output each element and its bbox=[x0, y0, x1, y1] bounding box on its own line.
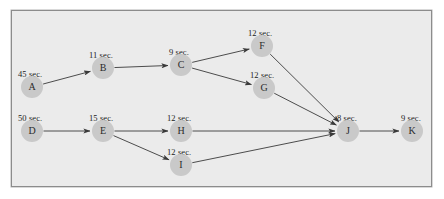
graph-node-i[interactable]: I bbox=[170, 154, 192, 176]
graph-node-b[interactable]: B bbox=[92, 57, 114, 79]
diagram-frame bbox=[11, 10, 432, 187]
node-label-g: G bbox=[253, 77, 275, 99]
graph-node-e[interactable]: E bbox=[92, 120, 114, 142]
graph-node-f[interactable]: F bbox=[251, 35, 273, 57]
graph-node-d[interactable]: D bbox=[21, 120, 43, 142]
node-label-j: J bbox=[337, 120, 359, 142]
node-label-a: A bbox=[21, 76, 43, 98]
node-label-e: E bbox=[92, 120, 114, 142]
node-label-d: D bbox=[21, 120, 43, 142]
graph-node-c[interactable]: C bbox=[170, 54, 192, 76]
graph-node-j[interactable]: J bbox=[337, 120, 359, 142]
graph-node-k[interactable]: K bbox=[401, 120, 423, 142]
node-label-k: K bbox=[401, 120, 423, 142]
node-label-c: C bbox=[170, 54, 192, 76]
node-label-b: B bbox=[92, 57, 114, 79]
node-label-f: F bbox=[251, 35, 273, 57]
node-label-i: I bbox=[170, 154, 192, 176]
node-label-h: H bbox=[170, 120, 192, 142]
graph-node-h[interactable]: H bbox=[170, 120, 192, 142]
diagram-canvas: 45 sec.A11 sec.B9 sec.C12 sec.F12 sec.G5… bbox=[0, 0, 444, 199]
graph-node-a[interactable]: A bbox=[21, 76, 43, 98]
graph-node-g[interactable]: G bbox=[253, 77, 275, 99]
